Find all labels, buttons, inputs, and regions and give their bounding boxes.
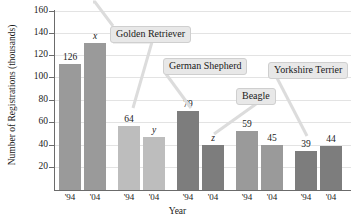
bar-2[interactable]: [118, 126, 140, 190]
callout-yorkshire-terrier[interactable]: Yorkshire Terrier: [268, 62, 348, 79]
bar-value-9: 44: [316, 134, 346, 144]
bar-1[interactable]: [84, 43, 106, 190]
bar-4[interactable]: [177, 111, 199, 190]
x-tick-label-9: '04: [316, 192, 346, 202]
bar-value-0: 126: [55, 52, 85, 62]
callout-beagle[interactable]: Beagle: [236, 88, 276, 105]
bar-value-4: 79: [173, 99, 203, 109]
callout-golden-retriever[interactable]: Golden Retriever: [110, 26, 191, 43]
chart-root: 160 140 120 100 80 60 40 20 126 x 64 y 7…: [0, 0, 355, 224]
bar-value-1: x: [80, 31, 110, 41]
bar-6[interactable]: [236, 131, 258, 190]
bar-value-6: 59: [232, 119, 262, 129]
x-tick-label-5: '04: [198, 192, 228, 202]
x-tick-label-7: '04: [257, 192, 287, 202]
bar-value-5: z: [198, 133, 228, 143]
bar-7[interactable]: [261, 145, 283, 190]
callout-german-shepherd[interactable]: German Shepherd: [163, 58, 247, 75]
bar-value-7: 45: [257, 133, 287, 143]
bar-8[interactable]: [295, 151, 317, 190]
bar-5[interactable]: [202, 145, 224, 190]
x-axis-line: [54, 190, 351, 191]
y-axis-title: Number of Registrations (thousands): [7, 10, 17, 180]
x-axis-title: Year: [0, 206, 355, 216]
bar-9[interactable]: [320, 146, 342, 190]
x-tick-label-3: '04: [139, 192, 169, 202]
bar-value-2: 64: [114, 114, 144, 124]
x-tick-label-1: '04: [80, 192, 110, 202]
bar-3[interactable]: [143, 137, 165, 190]
bar-0[interactable]: [59, 64, 81, 190]
bar-value-3: y: [139, 125, 169, 135]
